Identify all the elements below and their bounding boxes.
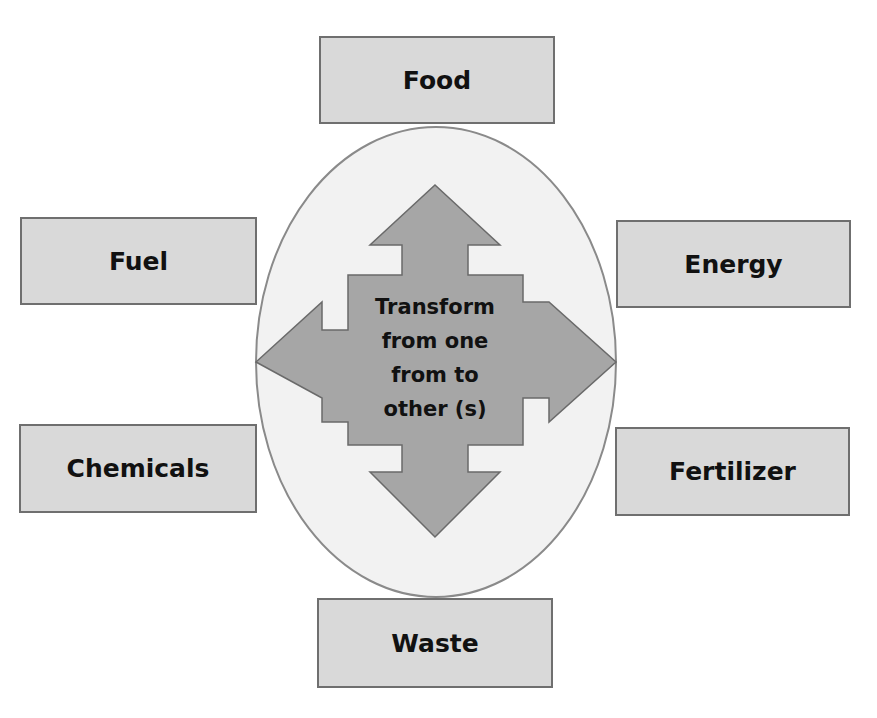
center-label: Transform from one from to other (s) (335, 290, 535, 426)
center-label-line-1: Transform (335, 290, 535, 324)
center-label-line-3: from to (335, 358, 535, 392)
node-fertilizer: Fertilizer (615, 427, 850, 516)
center-label-line-4: other (s) (335, 392, 535, 426)
node-chemicals: Chemicals (19, 424, 257, 513)
node-waste: Waste (317, 598, 553, 688)
node-energy: Energy (616, 220, 851, 308)
node-food: Food (319, 36, 555, 124)
center-label-line-2: from one (335, 324, 535, 358)
node-fuel: Fuel (20, 217, 257, 305)
